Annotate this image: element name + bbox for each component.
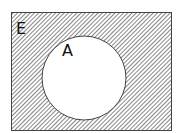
set-a-label: A [62, 41, 73, 60]
venn-diagram: E A [0, 0, 178, 133]
universal-set-label: E [16, 19, 26, 38]
set-a-circle [42, 36, 126, 120]
